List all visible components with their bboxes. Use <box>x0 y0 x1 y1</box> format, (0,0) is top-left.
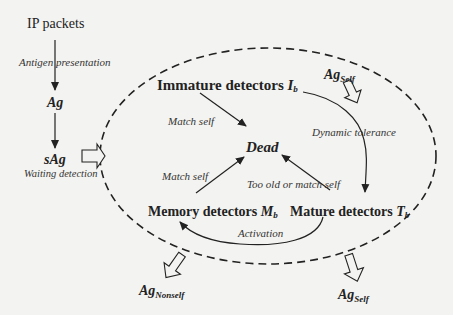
ag-node: Ag <box>47 96 63 110</box>
ag-nonself-out-label: AgNonself <box>139 284 184 300</box>
mature-symbol: T <box>396 204 405 219</box>
ag-self-in-label: AgSelf <box>324 68 355 84</box>
memory-detectors-node: Memory detectors Mb <box>148 205 278 220</box>
ag-self-out-subscript: Self <box>354 294 369 304</box>
memory-detectors-label: Memory detectors <box>148 204 261 219</box>
ag-self-in-base: Ag <box>324 67 340 82</box>
mature-detectors-node: Mature detectors Tb <box>290 205 409 220</box>
waiting-detection-label: Waiting detection <box>24 169 97 180</box>
hollow-arrow-agnonself-out <box>158 249 190 283</box>
immature-detectors-node: Immature detectors Ib <box>157 78 298 94</box>
ag-nonself-out-subscript: Nonself <box>155 290 184 300</box>
antigen-presentation-label: Antigen presentation <box>19 57 111 68</box>
diagram-graphics <box>0 0 453 315</box>
mature-detectors-label: Mature detectors <box>290 204 396 219</box>
sag-node: sAg <box>44 153 66 167</box>
mature-subscript: b <box>405 210 410 220</box>
immature-detectors-label: Immature detectors <box>157 77 288 93</box>
activation-label: Activation <box>238 228 283 239</box>
ag-self-out-base: Ag <box>338 287 354 302</box>
ag-self-out-label: AgSelf <box>338 288 369 304</box>
ag-nonself-out-base: Ag <box>139 283 155 298</box>
immature-subscript: b <box>293 84 298 94</box>
ip-packets-node: IP packets <box>27 17 84 31</box>
diagram-canvas: IP packets Antigen presentation Ag sAg W… <box>0 0 453 315</box>
too-old-or-match-self-label: Too old or match self <box>247 179 340 190</box>
hollow-arrow-agself-out <box>339 252 367 285</box>
dynamic-tolerance-label: Dynamic tolerance <box>312 127 396 138</box>
ag-self-in-subscript: Self <box>340 74 355 84</box>
memory-symbol: M <box>261 204 273 219</box>
dead-node: Dead <box>246 140 279 155</box>
match-self-immature-label: Match self <box>168 116 214 127</box>
hollow-arrow-sag-in <box>82 144 105 168</box>
memory-subscript: b <box>273 210 278 220</box>
match-self-memory-label: Match self <box>162 171 208 182</box>
